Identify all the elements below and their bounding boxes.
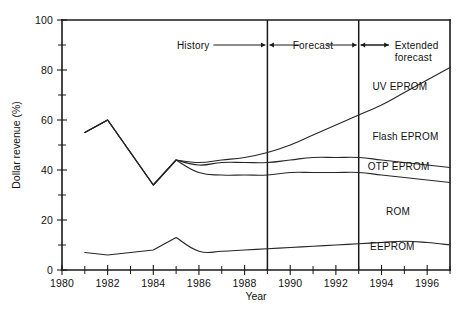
series-label-uv-eprom: UV EPROM <box>372 81 427 92</box>
plot-frame <box>62 20 450 270</box>
series-label-otp-eprom: OTP EPROM <box>368 161 430 172</box>
x-tick-label: 1994 <box>369 277 393 289</box>
history-arrow <box>213 42 265 47</box>
revenue-share-chart: 020406080100 198019821984198619881990199… <box>0 0 474 312</box>
series-label-eeprom: EEPROM <box>370 241 415 252</box>
x-tick-label: 1992 <box>324 277 348 289</box>
extended-arrow-right-head <box>384 42 389 47</box>
forecast-arrow-left-head <box>269 42 274 47</box>
x-axis-tick-labels: 198019821984198619881990199219941996 <box>50 277 439 289</box>
x-tick-label: 1986 <box>187 277 211 289</box>
y-axis-tick-labels: 020406080100 <box>35 14 53 276</box>
forecast-arrow-right-head <box>352 42 357 47</box>
series-label-rom: ROM <box>386 206 410 217</box>
history-arrow-head <box>261 42 266 47</box>
x-tick-label: 1996 <box>415 277 439 289</box>
y-tick-label: 60 <box>41 114 53 126</box>
y-tick-label: 80 <box>41 64 53 76</box>
chart-container: 020406080100 198019821984198619881990199… <box>0 0 474 312</box>
phase-label-history: History <box>177 40 210 51</box>
y-tick-label: 0 <box>47 264 53 276</box>
x-tick-label: 1980 <box>50 277 74 289</box>
phase-label-extended-forecast-line1: Extended <box>395 40 439 51</box>
y-tick-label: 40 <box>41 164 53 176</box>
x-tick-label: 1982 <box>96 277 120 289</box>
x-axis-title: Year <box>245 290 267 302</box>
x-tick-label: 1988 <box>233 277 257 289</box>
y-axis-title: Dollar revenue (%) <box>10 101 22 189</box>
phase-annotations: HistoryForecastExtendedforecast <box>177 40 439 63</box>
y-tick-label: 20 <box>41 214 53 226</box>
phase-divider-lines <box>267 20 358 270</box>
phase-label-extended-forecast-line2: forecast <box>395 52 432 63</box>
x-tick-label: 1990 <box>278 277 302 289</box>
x-tick-label: 1984 <box>141 277 165 289</box>
series-label-flash-eprom: Flash EPROM <box>372 131 438 142</box>
y-tick-label: 100 <box>35 14 53 26</box>
